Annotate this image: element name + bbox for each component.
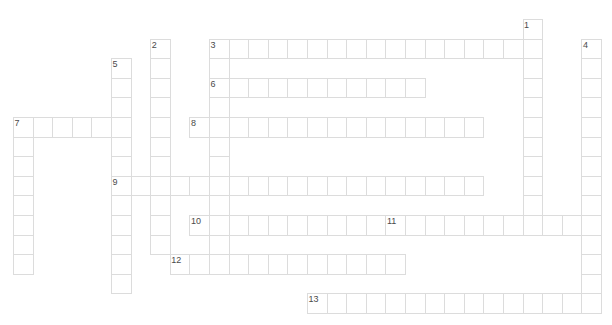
crossword-cell[interactable] <box>444 39 465 60</box>
crossword-cell[interactable] <box>366 78 387 99</box>
crossword-cell[interactable] <box>209 137 230 158</box>
crossword-cell[interactable] <box>91 117 112 138</box>
crossword-cell[interactable] <box>581 78 602 99</box>
crossword-cell[interactable] <box>268 117 289 138</box>
crossword-cell[interactable] <box>170 254 191 275</box>
crossword-cell[interactable] <box>229 39 250 60</box>
crossword-cell[interactable] <box>581 274 602 295</box>
crossword-cell[interactable] <box>248 78 269 99</box>
crossword-cell[interactable] <box>13 176 34 197</box>
crossword-cell[interactable] <box>150 176 171 197</box>
crossword-cell[interactable] <box>209 215 230 236</box>
crossword-cell[interactable] <box>503 293 524 314</box>
crossword-cell[interactable] <box>111 78 132 99</box>
crossword-cell[interactable] <box>385 293 406 314</box>
crossword-cell[interactable] <box>366 254 387 275</box>
crossword-cell[interactable] <box>523 215 544 236</box>
crossword-cell[interactable] <box>268 78 289 99</box>
crossword-cell[interactable] <box>111 97 132 118</box>
crossword-cell[interactable] <box>248 254 269 275</box>
crossword-cell[interactable] <box>581 293 602 314</box>
crossword-cell[interactable] <box>150 215 171 236</box>
crossword-cell[interactable] <box>366 215 387 236</box>
crossword-cell[interactable] <box>581 156 602 177</box>
crossword-cell[interactable] <box>327 176 348 197</box>
crossword-cell[interactable] <box>581 254 602 275</box>
crossword-cell[interactable] <box>425 215 446 236</box>
crossword-cell[interactable] <box>229 78 250 99</box>
crossword-cell[interactable] <box>287 78 308 99</box>
crossword-cell[interactable] <box>327 39 348 60</box>
crossword-cell[interactable] <box>268 254 289 275</box>
crossword-cell[interactable] <box>189 117 210 138</box>
crossword-cell[interactable] <box>346 117 367 138</box>
crossword-cell[interactable] <box>346 78 367 99</box>
crossword-cell[interactable] <box>209 176 230 197</box>
crossword-cell[interactable] <box>111 176 132 197</box>
crossword-cell[interactable] <box>346 39 367 60</box>
crossword-cell[interactable] <box>287 176 308 197</box>
crossword-cell[interactable] <box>523 58 544 79</box>
crossword-cell[interactable] <box>209 195 230 216</box>
crossword-cell[interactable] <box>248 176 269 197</box>
crossword-cell[interactable] <box>209 156 230 177</box>
crossword-cell[interactable] <box>346 176 367 197</box>
crossword-cell[interactable] <box>483 39 504 60</box>
crossword-cell[interactable] <box>523 117 544 138</box>
crossword-cell[interactable] <box>581 58 602 79</box>
crossword-cell[interactable] <box>385 117 406 138</box>
crossword-cell[interactable] <box>150 137 171 158</box>
crossword-cell[interactable] <box>248 215 269 236</box>
crossword-cell[interactable] <box>405 293 426 314</box>
crossword-cell[interactable] <box>209 97 230 118</box>
crossword-cell[interactable] <box>464 39 485 60</box>
crossword-cell[interactable] <box>307 78 328 99</box>
crossword-cell[interactable] <box>111 156 132 177</box>
crossword-cell[interactable] <box>405 117 426 138</box>
crossword-cell[interactable] <box>542 293 563 314</box>
crossword-cell[interactable] <box>268 39 289 60</box>
crossword-cell[interactable] <box>542 215 563 236</box>
crossword-cell[interactable] <box>150 39 171 60</box>
crossword-cell[interactable] <box>425 293 446 314</box>
crossword-cell[interactable] <box>327 117 348 138</box>
crossword-cell[interactable] <box>209 254 230 275</box>
crossword-cell[interactable] <box>111 58 132 79</box>
crossword-cell[interactable] <box>523 39 544 60</box>
crossword-cell[interactable] <box>268 176 289 197</box>
crossword-cell[interactable] <box>346 254 367 275</box>
crossword-cell[interactable] <box>150 235 171 256</box>
crossword-cell[interactable] <box>13 117 34 138</box>
crossword-cell[interactable] <box>523 176 544 197</box>
crossword-cell[interactable] <box>483 293 504 314</box>
crossword-cell[interactable] <box>189 254 210 275</box>
crossword-cell[interactable] <box>33 117 54 138</box>
crossword-cell[interactable] <box>425 117 446 138</box>
crossword-cell[interactable] <box>405 215 426 236</box>
crossword-cell[interactable] <box>346 215 367 236</box>
crossword-cell[interactable] <box>483 215 504 236</box>
crossword-cell[interactable] <box>464 176 485 197</box>
crossword-cell[interactable] <box>405 39 426 60</box>
crossword-cell[interactable] <box>581 39 602 60</box>
crossword-cell[interactable] <box>248 39 269 60</box>
crossword-cell[interactable] <box>209 117 230 138</box>
crossword-cell[interactable] <box>327 78 348 99</box>
crossword-cell[interactable] <box>581 137 602 158</box>
crossword-cell[interactable] <box>581 235 602 256</box>
crossword-cell[interactable] <box>287 39 308 60</box>
crossword-cell[interactable] <box>523 19 544 40</box>
crossword-cell[interactable] <box>385 254 406 275</box>
crossword-cell[interactable] <box>150 58 171 79</box>
crossword-cell[interactable] <box>503 215 524 236</box>
crossword-cell[interactable] <box>13 195 34 216</box>
crossword-cell[interactable] <box>111 195 132 216</box>
crossword-puzzle-grid[interactable]: 12345678910111213 <box>0 0 612 325</box>
crossword-cell[interactable] <box>464 117 485 138</box>
crossword-cell[interactable] <box>523 78 544 99</box>
crossword-cell[interactable] <box>523 156 544 177</box>
crossword-cell[interactable] <box>248 117 269 138</box>
crossword-cell[interactable] <box>150 156 171 177</box>
crossword-cell[interactable] <box>366 117 387 138</box>
crossword-cell[interactable] <box>229 254 250 275</box>
